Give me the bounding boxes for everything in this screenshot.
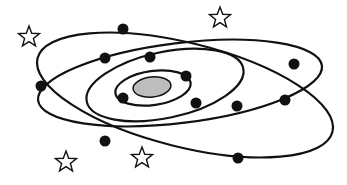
- nucleus-ellipse: [132, 75, 172, 99]
- star-icon: [210, 7, 231, 27]
- particle-dot: [233, 153, 244, 164]
- orbital-diagram: [0, 0, 347, 185]
- orbits: [25, 8, 345, 182]
- particle-dot: [100, 136, 111, 147]
- particle-dot: [118, 24, 129, 35]
- orbit-third: [33, 26, 327, 140]
- particle-dot: [280, 95, 291, 106]
- particle-dot: [181, 71, 192, 82]
- orbit-outer: [25, 8, 345, 182]
- star-icon: [19, 26, 40, 46]
- nucleus: [132, 75, 172, 99]
- star-icon: [56, 151, 77, 171]
- star-icon: [132, 147, 153, 167]
- particle-dot: [232, 101, 243, 112]
- particle-dot: [36, 81, 47, 92]
- particle-dot: [145, 52, 156, 63]
- particle-dot: [118, 93, 129, 104]
- diagram-canvas: [0, 0, 347, 185]
- particle-dot: [100, 53, 111, 64]
- particle-dot: [191, 98, 202, 109]
- particle-dot: [289, 59, 300, 70]
